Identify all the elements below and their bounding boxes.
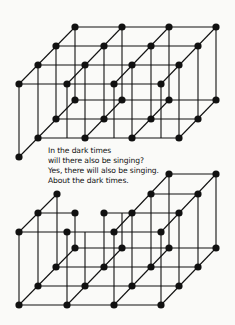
poem-line-3: Yes, there will also be singing. [48,166,159,176]
poem-line-1: In the dark times [48,146,159,156]
top-lattice [15,23,219,160]
bottom-lattice [15,170,219,308]
poem-text: In the dark times will there also be sin… [48,146,159,186]
poem-line-4: About the dark times. [48,176,159,186]
poem-line-2: will there also be singing? [48,156,159,166]
